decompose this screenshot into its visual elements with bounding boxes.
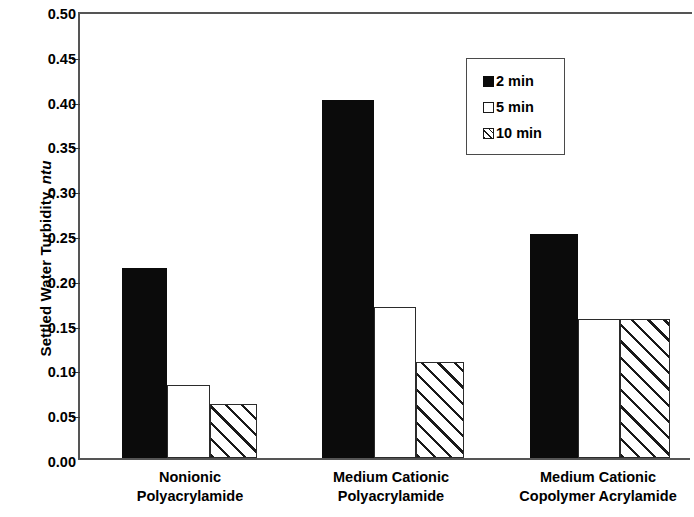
bar-3-5min: [578, 319, 620, 458]
y-axis-tick-label: 0.10: [48, 365, 76, 380]
legend: 2 min5 min10 min: [466, 58, 565, 155]
y-axis-tick-label: 0.35: [48, 141, 76, 156]
bar-3-2min: [530, 234, 578, 458]
y-axis-tick-label: 0.25: [48, 231, 76, 246]
legend-item: 5 min: [483, 94, 564, 120]
y-axis-title: Settled Water Turbidity, ntu: [30, 0, 60, 517]
legend-item: 10 min: [483, 120, 564, 146]
legend-item-label: 5 min: [496, 99, 534, 115]
y-axis-unit: ntu: [37, 161, 54, 185]
category-label-line: Medium Cationic: [519, 468, 676, 487]
bar-1-2min: [122, 268, 167, 458]
legend-item-label: 10 min: [496, 125, 542, 141]
category-label-line: Polyacrylamide: [333, 487, 449, 506]
category-label-line: Copolymer Acrylamide: [519, 487, 676, 506]
plot-area: 0.500.450.400.350.300.250.200.150.100.05…: [78, 12, 690, 460]
y-axis-tick-label: 0.45: [48, 52, 76, 67]
category-label-line: Polyacrylamide: [137, 487, 243, 506]
legend-swatch-icon: [483, 76, 494, 87]
y-axis-tick-label: 0.50: [48, 7, 76, 22]
bar-3-10min: [620, 319, 670, 458]
bar-1-10min: [210, 404, 257, 458]
legend-swatch-icon: [483, 102, 494, 113]
y-axis-tick-label: 0.30: [48, 186, 76, 201]
legend-swatch-icon: [483, 128, 494, 139]
bar-1-5min: [167, 385, 210, 458]
y-axis-tick-label: 0.15: [48, 320, 76, 335]
bar-2-2min: [322, 100, 374, 458]
legend-item-label: 2 min: [496, 73, 534, 89]
y-axis-tick-label: 0.00: [48, 455, 76, 470]
category-label-line: Nonionic: [137, 468, 243, 487]
y-axis-tick-label: 0.20: [48, 276, 76, 291]
bar-2-5min: [374, 307, 416, 458]
y-axis-tick-label: 0.40: [48, 96, 76, 111]
bar-2-10min: [416, 362, 464, 458]
y-axis-tick-label: 0.05: [48, 410, 76, 425]
bar-chart: Settled Water Turbidity, ntu 0.500.450.4…: [0, 0, 694, 517]
category-label-line: Medium Cationic: [333, 468, 449, 487]
legend-item: 2 min: [483, 68, 564, 94]
